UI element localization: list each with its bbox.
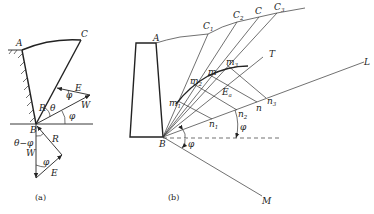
phi-ground-label: φ xyxy=(69,111,76,121)
point-a-label: A xyxy=(15,38,23,48)
theta-minus-phi-label: θ−φ xyxy=(14,138,34,148)
retaining-wall xyxy=(130,43,163,137)
panel-a-caption: (a) xyxy=(35,193,46,202)
coulomb-earth-pressure-diagram: A C B E φ W R θ φ θ−φ W R φ E (a) xyxy=(0,0,374,214)
ground-surface-line xyxy=(156,8,305,43)
panel-b-caption: (b) xyxy=(168,193,179,202)
wall-back-line xyxy=(22,50,36,124)
slip-surface-top-arc xyxy=(22,40,81,50)
n2-label: n2 xyxy=(238,109,248,120)
r-lower-label: R xyxy=(51,134,59,144)
theta-label: θ xyxy=(50,103,56,113)
e-upper-label: E xyxy=(74,83,82,93)
w-upper-label: W xyxy=(81,100,91,110)
thrust-e-upper-arrow xyxy=(57,88,90,95)
phi-angle-arc-lower-b xyxy=(182,139,185,148)
trial-line-bc3 xyxy=(163,13,277,137)
trial-line-bc2 xyxy=(163,22,237,137)
m-label: M xyxy=(261,196,272,206)
point-b-label-b: B xyxy=(158,139,166,149)
n-label-main: n xyxy=(256,103,262,113)
c1-label: C1 xyxy=(203,21,213,32)
r-upper-label: R xyxy=(38,103,46,113)
orientation-line-m xyxy=(163,137,262,196)
phi-label-m: φ xyxy=(188,139,195,149)
panel-b: A B C1 C2 C C3 T L M m1 m2 m m3 n1 n2 n … xyxy=(130,2,370,206)
phi-angle-arc-upper-b xyxy=(183,130,185,138)
phi-angle-arc-ground xyxy=(62,111,65,124)
m3-label: m3 xyxy=(226,57,239,68)
l-label: L xyxy=(363,57,370,67)
point-c-label: C xyxy=(81,29,88,39)
n1-label: n1 xyxy=(209,119,218,130)
panel-a: A C B E φ W R θ φ θ−φ W R φ E (a) xyxy=(8,29,93,202)
m2-label: m2 xyxy=(190,76,203,87)
c-label: C xyxy=(255,6,262,16)
w-lower-label: W xyxy=(26,148,36,158)
e-lower-label: E xyxy=(50,168,58,178)
phi-upper-label: φ xyxy=(66,90,73,100)
c3-label: C3 xyxy=(274,2,285,13)
c2-label: C2 xyxy=(233,10,244,21)
ea-label: Ea xyxy=(221,87,232,98)
phi-label-l: φ xyxy=(240,122,247,132)
theta-minus-phi-arc xyxy=(36,133,44,136)
wall-hatching xyxy=(9,50,34,122)
point-b-label: B xyxy=(29,125,37,135)
t-label: T xyxy=(269,49,276,59)
point-a-label-b: A xyxy=(152,33,160,43)
n3-label: n3 xyxy=(267,96,277,107)
phi-lower-label: φ xyxy=(43,157,50,167)
m-label-main: m xyxy=(208,67,217,77)
